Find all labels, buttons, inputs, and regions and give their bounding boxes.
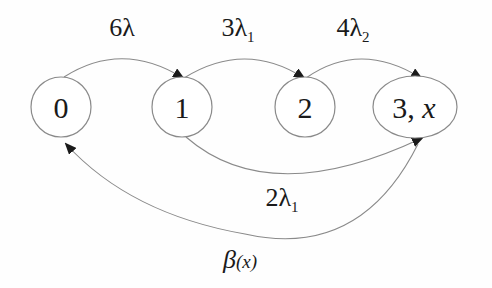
state-node-3x: 3, x [373,76,457,138]
edge-2-to-3x [306,59,421,78]
edge-0-to-1 [64,59,183,78]
edge-label-0-to-1: 6λ [109,13,135,42]
state-label-2: 2 [298,91,313,124]
edge-1-to-2 [184,59,304,78]
edge-1-to-3x [186,137,422,174]
state-diagram: 0 1 2 3, x 6λ 3λ1 4λ2 2λ1 β(x) [0,0,492,288]
state-label-0: 0 [54,91,69,124]
edge-label-1-to-2: 3λ1 [221,13,254,45]
edge-3x-to-0 [66,144,418,239]
edge-label-3x-to-0: β(x) [222,245,257,274]
edge-label-1-to-3x: 2λ1 [265,183,298,215]
edge-label-2-to-3x: 4λ2 [336,13,369,45]
state-node-2: 2 [275,77,335,137]
state-node-0: 0 [31,77,91,137]
state-label-3x: 3, x [392,91,436,124]
diagram-canvas: 0 1 2 3, x 6λ 3λ1 4λ2 2λ1 β(x) [0,0,492,288]
state-label-1: 1 [175,91,190,124]
state-node-1: 1 [152,77,212,137]
